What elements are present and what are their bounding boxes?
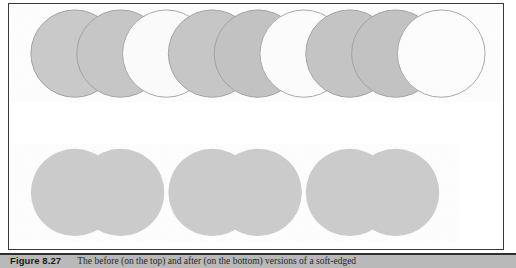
after-blob	[306, 149, 439, 236]
figure-frame	[8, 3, 504, 250]
after-blob	[31, 149, 164, 236]
figure-caption: Figure 8.27The before (on the top) and a…	[10, 255, 510, 267]
before-circle	[397, 10, 485, 97]
figure-page: Figure 8.27The before (on the top) and a…	[0, 0, 516, 268]
after-row-group	[31, 149, 439, 236]
figure-caption-bar: Figure 8.27The before (on the top) and a…	[0, 253, 516, 268]
circles-diagram-svg	[9, 4, 503, 249]
figure-caption-label: Figure 8.27	[10, 255, 61, 266]
figure-caption-text: The before (on the top) and after (on th…	[77, 256, 356, 266]
after-blob	[168, 149, 301, 236]
before-row-group	[31, 10, 485, 97]
figure-artwork	[9, 4, 503, 249]
